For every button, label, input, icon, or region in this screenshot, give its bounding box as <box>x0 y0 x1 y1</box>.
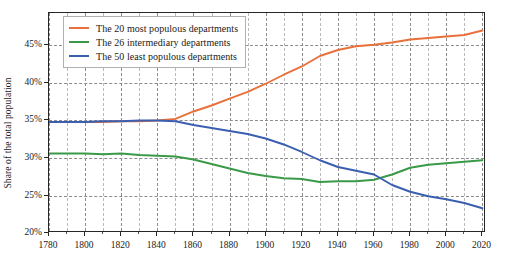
y-tick-label: 40% <box>25 77 42 87</box>
x-tick-mark-minor <box>283 232 284 234</box>
x-tick-mark-minor <box>102 232 103 234</box>
x-tick-mark <box>84 232 85 236</box>
series-line <box>49 120 482 208</box>
legend-item: The 50 least populous departments <box>69 49 238 63</box>
legend-label: The 50 least populous departments <box>96 51 237 62</box>
x-tick-mark <box>445 232 446 236</box>
x-tick-label: 1820 <box>100 240 140 251</box>
chart-figure: Share of the total population 20%25%30%3… <box>0 0 505 266</box>
legend-item: The 26 intermediary departments <box>69 35 238 49</box>
x-tick-mark-minor <box>174 232 175 234</box>
legend-label: The 26 intermediary departments <box>96 37 231 48</box>
y-tick-label: 20% <box>25 227 42 237</box>
legend-label: The 20 most populous departments <box>96 23 238 34</box>
y-axis-title: Share of the total population <box>0 0 16 266</box>
x-tick-mark-minor <box>355 232 356 234</box>
x-tick-label: 1800 <box>64 240 104 251</box>
x-tick-mark-minor <box>138 232 139 234</box>
y-tick-label: 35% <box>25 114 42 124</box>
x-tick-label: 2020 <box>461 240 501 251</box>
legend-color-swatch <box>69 41 89 43</box>
x-tick-mark <box>481 232 482 236</box>
x-tick-label: 1980 <box>389 240 429 251</box>
x-tick-mark-minor <box>319 232 320 234</box>
y-tick-label: 25% <box>25 190 42 200</box>
x-tick-mark-minor <box>427 232 428 234</box>
x-tick-label: 1860 <box>172 240 212 251</box>
x-tick-mark <box>48 232 49 236</box>
x-tick-label: 1920 <box>281 240 321 251</box>
x-tick-mark-minor <box>211 232 212 234</box>
x-tick-label: 1940 <box>317 240 357 251</box>
x-tick-mark <box>337 232 338 236</box>
x-tick-mark <box>156 232 157 236</box>
x-tick-mark <box>409 232 410 236</box>
legend-color-swatch <box>69 27 89 29</box>
series-line <box>49 153 482 182</box>
chart-legend: The 20 most populous departmentsThe 26 i… <box>63 16 246 68</box>
x-tick-mark-minor <box>463 232 464 234</box>
x-tick-label: 1840 <box>136 240 176 251</box>
y-tick-label: 30% <box>25 152 42 162</box>
y-tick-label: 45% <box>25 39 42 49</box>
x-tick-label: 1900 <box>245 240 285 251</box>
x-tick-label: 2000 <box>425 240 465 251</box>
legend-color-swatch <box>69 55 89 57</box>
x-tick-mark-minor <box>247 232 248 234</box>
x-tick-label: 1780 <box>28 240 68 251</box>
x-tick-label: 1960 <box>353 240 393 251</box>
x-tick-mark <box>192 232 193 236</box>
x-tick-mark <box>373 232 374 236</box>
x-tick-mark-minor <box>391 232 392 234</box>
x-tick-mark <box>301 232 302 236</box>
x-tick-label: 1880 <box>209 240 249 251</box>
legend-item: The 20 most populous departments <box>69 21 238 35</box>
x-tick-mark <box>120 232 121 236</box>
x-tick-mark <box>265 232 266 236</box>
x-tick-mark-minor <box>66 232 67 234</box>
x-tick-mark <box>229 232 230 236</box>
